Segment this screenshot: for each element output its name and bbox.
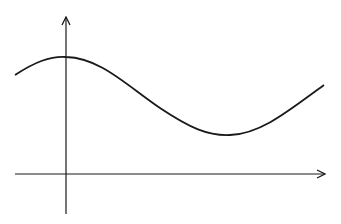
sinusoidal-curve — [15, 57, 324, 135]
function-graph-diagram — [0, 0, 341, 224]
